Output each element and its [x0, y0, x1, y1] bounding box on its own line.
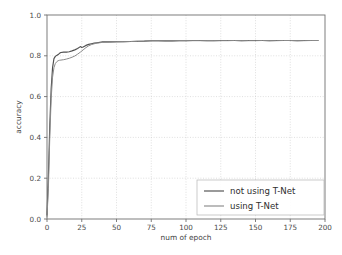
accuracy-vs-epoch-chart: 0255075100125150175200 0.00.20.40.60.81.… — [0, 0, 342, 255]
y-axis-title: accuracy — [14, 100, 23, 134]
x-tick-label: 25 — [77, 223, 86, 232]
y-tick-label: 0.8 — [30, 51, 42, 60]
x-tick-label: 150 — [249, 223, 263, 232]
legend-label-using-tnet: using T-Net — [230, 201, 279, 211]
chart-legend[interactable]: not using T-Net using T-Net — [197, 180, 324, 215]
legend-label-not-using-tnet: not using T-Net — [230, 186, 296, 196]
y-tick-label: 0.2 — [30, 174, 41, 183]
x-tick-label: 100 — [179, 223, 193, 232]
figure-background — [0, 0, 342, 255]
x-tick-label: 50 — [112, 223, 122, 232]
y-tick-label: 1.0 — [30, 11, 42, 20]
x-axis-title: num of epoch — [161, 233, 212, 242]
x-tick-label: 200 — [318, 223, 332, 232]
y-tick-label: 0.0 — [30, 215, 42, 224]
x-tick-label: 175 — [283, 223, 297, 232]
x-tick-label: 125 — [214, 223, 228, 232]
x-tick-label: 75 — [147, 223, 156, 232]
y-tick-label: 0.6 — [30, 92, 42, 101]
x-tick-label: 0 — [45, 223, 50, 232]
figure-canvas: 0255075100125150175200 0.00.20.40.60.81.… — [0, 0, 342, 255]
y-tick-label: 0.4 — [30, 133, 42, 142]
